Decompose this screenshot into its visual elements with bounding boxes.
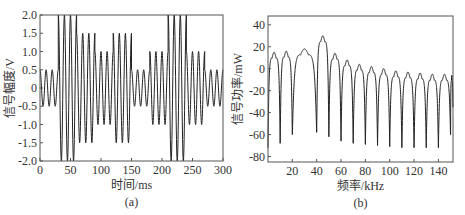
y-tick-a: -1.0	[18, 118, 37, 132]
y-tick-a: 0	[31, 81, 37, 95]
x-tick-b: 120	[405, 164, 423, 178]
x-tick-b: 20	[286, 164, 298, 178]
x-tick-b: 100	[381, 164, 399, 178]
x-axis-label-b: 频率/kHz	[337, 178, 384, 193]
y-tick-a: 0.5	[22, 63, 37, 77]
y-tick-a: -0.5	[18, 99, 37, 113]
x-tick-b: 40	[311, 164, 323, 178]
x-tick-a: 200	[153, 163, 171, 177]
spectrum-line-b	[268, 36, 453, 148]
x-tick-a: 50	[65, 163, 77, 177]
signal-line-a	[40, 15, 223, 161]
y-tick-b: -40	[249, 106, 265, 120]
x-tick-b: 140	[429, 164, 447, 178]
figure: 2.01.51.00.50-0.5-1.0-1.5-2.005010015020…	[0, 0, 465, 215]
y-tick-a: 1.0	[22, 45, 37, 59]
y-tick-b: 0	[259, 62, 265, 76]
x-tick-a: 0	[37, 163, 43, 177]
x-tick-a: 250	[184, 163, 202, 177]
y-tick-b: 40	[253, 18, 265, 32]
y-tick-a: -2.0	[18, 154, 37, 168]
x-tick-a: 300	[214, 163, 232, 177]
plot-frame-b	[268, 16, 453, 162]
y-axis-label-b: 信号功率/mW	[230, 52, 245, 125]
y-tick-a: -1.5	[18, 136, 37, 150]
y-tick-a: 1.5	[22, 26, 37, 40]
x-tick-a: 150	[123, 163, 141, 177]
x-tick-b: 60	[335, 164, 347, 178]
y-axis-label-a: 信号幅度/V	[2, 58, 17, 118]
panel-label-a: (a)	[125, 195, 138, 209]
x-tick-b: 80	[359, 164, 371, 178]
y-tick-b: -20	[249, 84, 265, 98]
x-axis-label-a: 时间/ms	[111, 178, 153, 192]
y-tick-a: 2.0	[22, 8, 37, 22]
y-tick-b: -80	[249, 150, 265, 164]
y-tick-b: 20	[253, 40, 265, 54]
panel-label-b: (b)	[354, 196, 368, 210]
x-tick-a: 100	[92, 163, 110, 177]
y-tick-b: -60	[249, 128, 265, 142]
